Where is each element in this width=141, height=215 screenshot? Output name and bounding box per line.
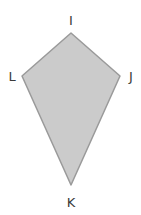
vertex-label-i: I (69, 13, 73, 28)
kite-shape (22, 33, 120, 185)
vertex-label-l: L (8, 69, 16, 84)
vertex-label-k: K (67, 195, 76, 210)
kite-diagram: I J K L (0, 0, 141, 215)
vertex-label-j: J (128, 69, 133, 84)
